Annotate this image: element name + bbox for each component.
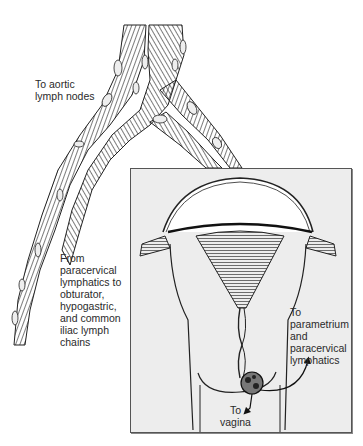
label-line: obturator, xyxy=(60,288,121,300)
label-line: lymph nodes xyxy=(35,90,95,102)
label-line: and common xyxy=(60,312,121,324)
label-line: hypogastric, xyxy=(60,300,121,312)
label-line: vagina xyxy=(220,416,251,428)
label-line: iliac lymph xyxy=(60,324,121,336)
label-line: From xyxy=(60,252,121,264)
label-vagina: To vagina xyxy=(220,404,251,428)
label-parametrium: To parametrium and paracervical lymphati… xyxy=(290,306,349,366)
label-line: To aortic xyxy=(35,78,95,90)
label-line: parametrium xyxy=(290,318,349,330)
label-line: To xyxy=(290,306,349,318)
uterus-cervix-drawing xyxy=(0,0,363,446)
label-line: chains xyxy=(60,336,121,348)
label-line: To xyxy=(220,404,251,416)
label-line: lymphatics to xyxy=(60,276,121,288)
label-line: paracervical xyxy=(60,264,121,276)
label-line: paracervical xyxy=(290,342,349,354)
label-pelvic-lymph-chains: From paracervical lymphatics to obturato… xyxy=(60,252,121,348)
label-aortic-lymph-nodes: To aortic lymph nodes xyxy=(35,78,95,102)
label-line: lymphatics xyxy=(290,354,349,366)
label-line: and xyxy=(290,330,349,342)
